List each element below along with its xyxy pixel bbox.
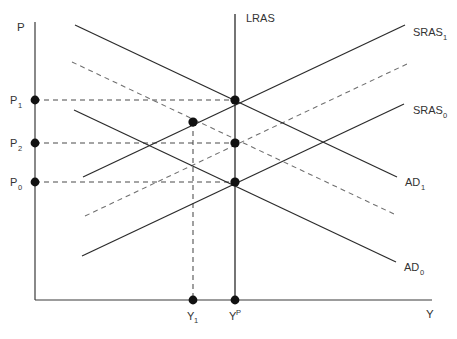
curve-label-sras0: SRAS 0 [413, 104, 447, 120]
equilibrium-point-top [230, 95, 239, 104]
output-label-y1-sub: 1 [194, 316, 198, 325]
curve-label-ad1-sub: 1 [421, 183, 425, 192]
equilibrium-point-mid-left [188, 117, 197, 126]
price-label-p0-base: P [10, 176, 17, 188]
price-label-p2-base: P [10, 137, 17, 149]
axis-point-p2 [31, 139, 40, 148]
axis-point-p1 [31, 96, 40, 105]
price-label-p2: P 2 [10, 137, 22, 153]
curve-label-ad0: AD 0 [404, 261, 424, 277]
axis-point-y1 [189, 296, 198, 305]
equilibrium-point-bottom [230, 177, 239, 186]
output-label-yp: Y P [229, 308, 241, 322]
equilibrium-point-mid [230, 138, 239, 147]
curve-label-ad1: AD 1 [405, 176, 425, 192]
x-axis-label: Y [426, 308, 434, 320]
price-label-p1-base: P [10, 94, 17, 106]
curve-label-ad0-sub: 0 [420, 268, 424, 277]
curve-label-sras1: SRAS 1 [413, 26, 447, 42]
curve-label-ad1-base: AD [405, 176, 420, 188]
chart-canvas: P Y P 1 P 2 P 0 Y 1 Y [0, 0, 457, 339]
curve-labels-group: LRAS SRAS 1 SRAS 0 AD 1 AD 0 [246, 12, 447, 277]
guide-lines-group [35, 100, 235, 300]
output-tick-labels-group: Y 1 Y P [187, 308, 241, 325]
axis-points-group [31, 96, 240, 305]
curve-label-sras1-sub: 1 [443, 33, 447, 42]
curve-label-ad0-base: AD [404, 261, 419, 273]
sras1-curve [83, 25, 405, 177]
curve-label-sras0-sub: 0 [443, 111, 447, 120]
ad-intermediate-curve [72, 62, 394, 214]
price-label-p0: P 0 [10, 176, 22, 192]
output-label-yp-sup: P [236, 308, 241, 317]
curve-label-sras0-base: SRAS [413, 104, 443, 116]
price-label-p2-sub: 2 [18, 144, 22, 153]
axis-point-yp [231, 296, 240, 305]
curve-label-sras1-base: SRAS [413, 26, 443, 38]
price-tick-labels-group: P 1 P 2 P 0 [10, 94, 22, 192]
sras0-curve [82, 104, 404, 256]
price-label-p1-sub: 1 [18, 101, 22, 110]
ad-as-diagram: P Y P 1 P 2 P 0 Y 1 Y [0, 0, 457, 339]
price-label-p1: P 1 [10, 94, 22, 110]
axes-group [35, 22, 432, 300]
axis-titles-group: P Y [17, 21, 434, 320]
equilibrium-points-group [188, 95, 239, 186]
sras-curves-group [82, 25, 407, 256]
axis-point-p0 [31, 178, 40, 187]
y-axis-label: P [17, 21, 25, 33]
curve-label-lras: LRAS [246, 12, 275, 24]
sras-intermediate-curve [85, 64, 407, 216]
price-label-p0-sub: 0 [18, 183, 22, 192]
output-label-y1: Y 1 [187, 310, 198, 325]
